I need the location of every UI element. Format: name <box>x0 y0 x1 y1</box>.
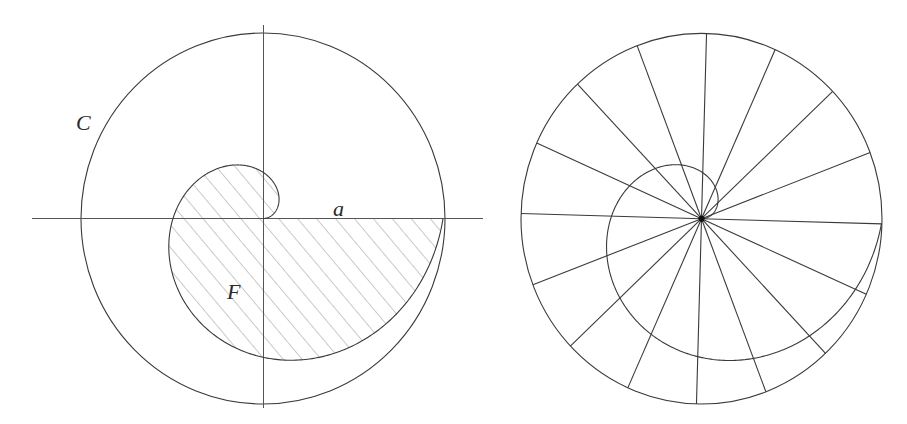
spoke-line <box>570 219 701 346</box>
archimedean-spiral-diagram: C a F <box>0 0 907 424</box>
spoke-line <box>577 84 701 219</box>
label-area-F: F <box>226 279 241 304</box>
spoke-line <box>702 219 882 224</box>
label-radius-a: a <box>333 196 344 221</box>
center-point <box>699 216 705 222</box>
spoke-line <box>702 153 871 219</box>
spoke-line <box>702 219 826 354</box>
right-figure <box>521 33 882 404</box>
spoke-line <box>696 219 701 404</box>
spoke-line <box>702 219 766 392</box>
label-circle-C: C <box>76 110 91 135</box>
spoke-line <box>702 33 707 218</box>
left-figure: C a F <box>32 25 483 408</box>
spoke-line <box>537 143 702 219</box>
spoke-line <box>702 50 776 219</box>
spoke-line <box>637 46 701 219</box>
spoke-line <box>702 91 833 218</box>
spoke-line <box>533 219 702 285</box>
spoke-line <box>628 219 702 388</box>
spoke-line <box>702 219 867 295</box>
